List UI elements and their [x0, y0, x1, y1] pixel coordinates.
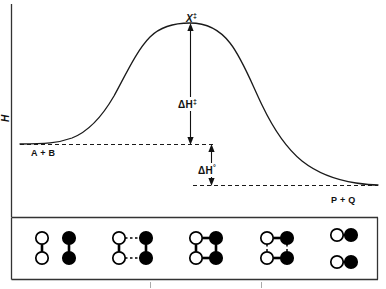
reaction-enthalpy-arrowhead-down [208, 178, 214, 186]
atom-open-icon [113, 252, 125, 264]
atom-filled-icon [345, 256, 357, 268]
product-level-label: P + Q [331, 196, 356, 205]
molecule-group-approach [113, 232, 152, 264]
atom-filled-icon [210, 252, 222, 264]
atom-filled-icon [140, 252, 152, 264]
reaction-enthalpy-label: ΔH° [196, 163, 218, 177]
transition-state-label: X‡ [186, 12, 197, 24]
atom-filled-icon [345, 229, 357, 241]
atom-filled-icon [140, 232, 152, 244]
double-dagger-icon: ‡ [193, 98, 197, 105]
activation-enthalpy-label: ΔH‡ [176, 97, 199, 111]
atom-filled-icon [281, 232, 293, 244]
atom-open-icon [113, 232, 125, 244]
atom-open-icon [331, 256, 343, 268]
reaction-enthalpy-arrowhead-up [208, 144, 214, 152]
atom-open-icon [36, 252, 48, 264]
activation-enthalpy-arrowhead-down [187, 137, 193, 145]
atom-filled-icon [63, 252, 75, 264]
molecule-group-transition-state [190, 232, 222, 264]
atom-open-icon [331, 229, 343, 241]
atom-open-icon [190, 252, 202, 264]
reaction-enthalpy-symbol: ΔH [198, 165, 213, 176]
atom-filled-icon [210, 232, 222, 244]
degree-icon: ° [213, 164, 216, 171]
molecule-group-reactants [36, 232, 75, 264]
y-axis-label: H [1, 114, 11, 122]
reactant-level-label: A + B [31, 149, 55, 158]
molecule-group-product-formation [261, 232, 293, 264]
diagram-canvas [0, 0, 386, 289]
energy-profile-figure: H A + B P + Q X‡ ΔH‡ ΔH° [0, 0, 386, 289]
atom-open-icon [261, 232, 273, 244]
molecule-group-products [331, 229, 357, 268]
enthalpy-curve [20, 23, 378, 185]
atom-open-icon [36, 232, 48, 244]
double-dagger-icon: ‡ [193, 12, 197, 19]
atom-filled-icon [63, 232, 75, 244]
atom-open-icon [190, 232, 202, 244]
atom-filled-icon [281, 252, 293, 264]
activation-enthalpy-symbol: ΔH [178, 99, 193, 110]
atom-open-icon [261, 252, 273, 264]
transition-state-symbol: X [186, 13, 193, 24]
